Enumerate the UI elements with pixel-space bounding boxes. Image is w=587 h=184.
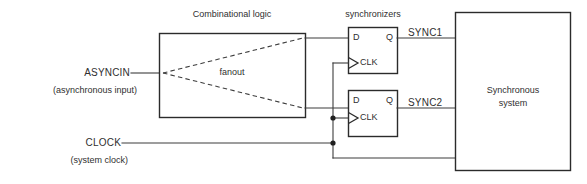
fanout-label: fanout bbox=[219, 68, 244, 77]
circuit-diagram: Combinational logic fanout synchronizers… bbox=[0, 0, 587, 184]
sync1-label: SYNC1 bbox=[408, 28, 442, 38]
flipflop1-clk-label: CLK bbox=[360, 58, 378, 67]
flipflop2-clk-label: CLK bbox=[360, 113, 378, 122]
combinational-logic-caption: Combinational logic bbox=[193, 10, 272, 19]
synchronous-system-line1: Synchronous bbox=[487, 86, 540, 95]
flipflop1-d-label: D bbox=[353, 33, 360, 42]
synchronous-system-line2: system bbox=[499, 99, 528, 108]
clock-label: CLOCK bbox=[86, 138, 121, 148]
clock-note: (system clock) bbox=[70, 156, 128, 165]
flipflop2-q-label: Q bbox=[386, 96, 393, 105]
asyncin-note: (asynchronous input) bbox=[53, 86, 137, 95]
asyncin-label: ASYNCIN bbox=[84, 68, 130, 78]
flipflop2-d-label: D bbox=[353, 96, 360, 105]
flipflop1-q-label: Q bbox=[386, 33, 393, 42]
sync2-label: SYNC2 bbox=[408, 98, 442, 108]
junction-dot-ff2-clk bbox=[330, 115, 335, 120]
synchronizers-caption: synchronizers bbox=[345, 10, 401, 19]
junction-dot-clock-trunk bbox=[330, 140, 335, 145]
